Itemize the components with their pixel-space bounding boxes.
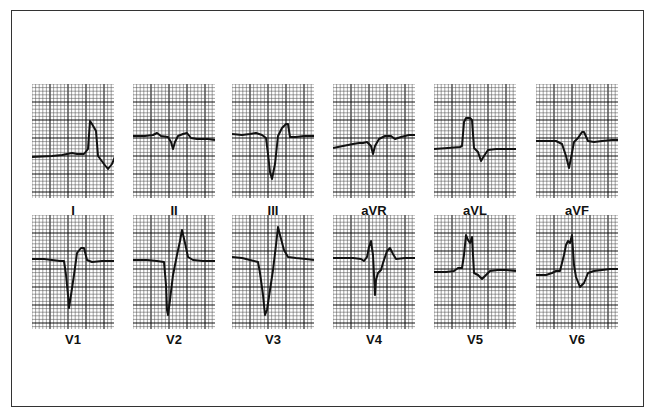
ecg-grid	[32, 84, 114, 198]
ecg-panel-avf	[536, 84, 618, 198]
ecg-grid	[232, 84, 314, 198]
ecg-panel-iii	[232, 84, 314, 198]
ecg-grid	[333, 84, 415, 198]
ecg-panel-v2	[133, 215, 215, 329]
ecg-panel-v1	[32, 215, 114, 329]
ecg-grid	[133, 215, 215, 329]
ecg-panel-ii	[133, 84, 215, 198]
lead-label: V1	[32, 332, 114, 347]
ecg-panel-avr	[333, 84, 415, 198]
ecg-panel-v5	[434, 215, 516, 329]
lead-label: V3	[232, 332, 314, 347]
ecg-panel-i	[32, 84, 114, 198]
ecg-grid	[333, 215, 415, 329]
ecg-trace	[536, 132, 618, 168]
lead-label: V6	[536, 332, 618, 347]
lead-label: V2	[133, 332, 215, 347]
ecg-trace	[32, 248, 114, 308]
ecg-grid	[133, 84, 215, 198]
lead-label: V5	[434, 332, 516, 347]
ecg-panel-avl	[434, 84, 516, 198]
ecg-trace	[536, 235, 618, 287]
ecg-grid	[32, 215, 114, 329]
ecg-trace	[232, 124, 314, 179]
ecg-panel-v6	[536, 215, 618, 329]
ecg-panel-v3	[232, 215, 314, 329]
ecg-grid	[232, 215, 314, 329]
ecg-grid	[536, 215, 618, 329]
ecg-trace	[133, 133, 215, 149]
ecg-trace	[434, 118, 516, 161]
ecg-grid	[434, 84, 516, 198]
lead-label: V4	[333, 332, 415, 347]
ecg-grid	[536, 84, 618, 198]
ecg-grid	[434, 215, 516, 329]
ecg-panel-v4	[333, 215, 415, 329]
